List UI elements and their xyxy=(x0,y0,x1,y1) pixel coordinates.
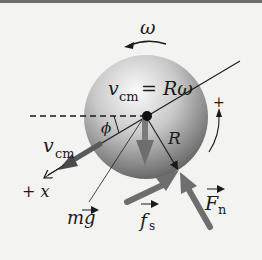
svg-text:F: F xyxy=(204,192,219,214)
positive-rotation-arrow-icon xyxy=(209,108,222,152)
phi-label: ϕ xyxy=(101,119,111,137)
mg-label: mg xyxy=(67,207,97,228)
omega-label: ω xyxy=(140,16,156,38)
omega-rotation-arrow-icon xyxy=(124,41,166,49)
svg-text:cm: cm xyxy=(119,89,139,104)
plus-x-axis-arrow-icon xyxy=(44,165,64,178)
plus-rotation-label: + xyxy=(213,94,225,110)
vcm-label: v cm xyxy=(43,134,75,161)
svg-text:s: s xyxy=(149,219,155,233)
svg-text:= Rω: = Rω xyxy=(141,77,193,99)
plus-x-label: + x xyxy=(22,182,50,201)
svg-text:v: v xyxy=(43,134,54,156)
svg-text:n: n xyxy=(218,202,227,217)
radius-label: R xyxy=(167,128,181,148)
svg-text:v: v xyxy=(108,77,119,99)
svg-text:cm: cm xyxy=(55,146,75,161)
Fn-label: F n xyxy=(204,189,227,217)
rolling-sphere-diagram: ω + v cm = Rω ϕ xyxy=(0,0,262,260)
center-of-mass-dot xyxy=(142,111,152,121)
fs-label: f s xyxy=(138,204,157,233)
